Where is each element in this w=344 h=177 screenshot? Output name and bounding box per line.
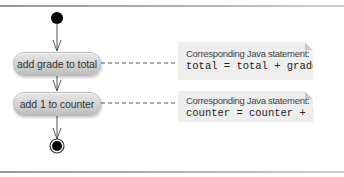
action-add-grade-to-total: add grade to total [13, 52, 101, 76]
transition-arrow-action2-to-final [53, 115, 61, 139]
note-code: counter = counter + 1; [186, 107, 313, 120]
initial-node [51, 12, 63, 24]
note-caption: Corresponding Java statement: [186, 95, 313, 107]
note-caption: Corresponding Java statement: [186, 48, 313, 60]
action-add-1-to-counter: add 1 to counter [13, 92, 101, 116]
action-label: add 1 to counter [20, 98, 94, 110]
note-java-statement-2: Corresponding Java statement: counter = … [178, 91, 313, 122]
transition-arrow-action1-to-action2 [53, 75, 61, 91]
bottom-border-rule [0, 171, 344, 173]
diagram-canvas [0, 0, 344, 177]
final-node [50, 139, 64, 153]
note-code: total = total + grade; [186, 60, 313, 73]
note-java-statement-1: Corresponding Java statement: total = to… [178, 42, 313, 80]
transition-arrow-start-to-action1 [53, 24, 61, 51]
action-label: add grade to total [17, 58, 97, 70]
